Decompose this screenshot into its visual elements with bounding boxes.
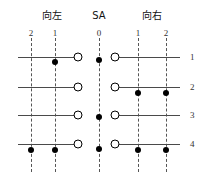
bar-left-row4 (18, 144, 77, 145)
row-number-2: 2 (190, 82, 195, 92)
bar-right-row3 (116, 115, 180, 116)
terminal-left-row4 (74, 140, 83, 149)
column-number-3: 0 (97, 28, 102, 38)
contact-left1-row4 (52, 147, 58, 153)
switch-contact-diagram: 向左SA向右210121234 (0, 0, 208, 189)
group-label-2: SA (92, 10, 105, 22)
group-label-1: 向左 (42, 10, 62, 22)
terminal-right-row4 (111, 140, 120, 149)
terminal-left-row1 (74, 53, 83, 62)
column-number-2: 1 (53, 28, 58, 38)
terminal-right-row1 (111, 53, 120, 62)
bar-left-row3 (18, 115, 77, 116)
column-number-1: 2 (29, 28, 34, 38)
bar-right-row2 (116, 87, 180, 88)
contact-right2-row4 (163, 147, 169, 153)
terminal-right-row2 (111, 83, 120, 92)
contact-sa-row4 (96, 146, 102, 152)
bar-left-row2 (18, 87, 77, 88)
bar-right-row1 (116, 57, 180, 58)
terminal-left-row2 (74, 83, 83, 92)
contact-sa-row1 (96, 57, 102, 63)
contact-left1-row1 (52, 59, 58, 65)
contact-left2-row4 (28, 147, 34, 153)
row-number-1: 1 (190, 52, 195, 62)
contact-right1-row2 (135, 90, 141, 96)
row-number-4: 4 (190, 139, 195, 149)
terminal-left-row3 (74, 111, 83, 120)
contact-right2-row2 (163, 90, 169, 96)
terminal-right-row3 (111, 111, 120, 120)
bar-right-row4 (116, 144, 180, 145)
column-number-5: 2 (164, 28, 169, 38)
contact-right1-row4 (135, 147, 141, 153)
row-number-3: 3 (190, 110, 195, 120)
group-label-3: 向右 (142, 10, 162, 22)
column-number-4: 1 (136, 28, 141, 38)
contact-sa-row3 (96, 114, 102, 120)
bar-left-row1 (18, 57, 77, 58)
